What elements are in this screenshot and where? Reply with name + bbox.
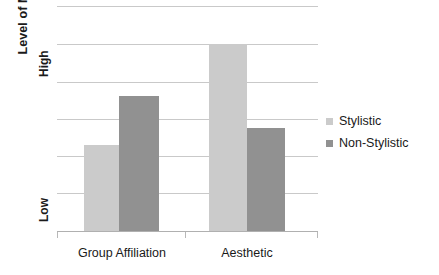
legend-label-stylistic: Stylistic xyxy=(339,113,381,129)
y-tick-label-high: High xyxy=(37,33,51,77)
y-axis-title: Level of Motivation xyxy=(13,0,33,72)
legend-item-stylistic[interactable]: Stylistic xyxy=(326,110,438,132)
x-axis-tick xyxy=(185,232,186,238)
bar-group-affiliation-non-stylistic xyxy=(119,96,159,232)
legend-item-non-stylistic[interactable]: Non-Stylistic xyxy=(326,132,438,154)
bar-aesthetic-stylistic xyxy=(209,44,247,232)
gridline xyxy=(57,6,318,7)
gridline xyxy=(57,82,318,83)
plot-area xyxy=(57,0,318,232)
legend: Stylistic Non-Stylistic xyxy=(326,110,438,154)
gridline xyxy=(57,119,318,120)
x-tick-label-group-affiliation: Group Affiliation xyxy=(62,245,182,261)
bar-chart: Level of Motivation High Low Group Affil… xyxy=(0,0,439,275)
x-axis-tick xyxy=(317,232,318,238)
x-tick-label-aesthetic: Aesthetic xyxy=(197,245,297,261)
bar-aesthetic-non-stylistic xyxy=(247,128,285,232)
x-axis-tick xyxy=(57,232,58,238)
x-axis-line xyxy=(57,231,318,232)
gridline xyxy=(57,44,318,45)
legend-swatch-stylistic xyxy=(326,118,333,125)
legend-swatch-non-stylistic xyxy=(326,140,333,147)
bar-group-affiliation-stylistic xyxy=(84,145,119,232)
y-tick-label-low: Low xyxy=(37,178,51,222)
legend-label-non-stylistic: Non-Stylistic xyxy=(339,135,408,151)
